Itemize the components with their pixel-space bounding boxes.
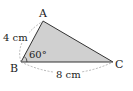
measurement-bc: 8 cm bbox=[56, 69, 81, 80]
vertex-label-b: B bbox=[10, 62, 18, 75]
measurement-ab: 4 cm bbox=[3, 32, 28, 43]
vertex-label-c: C bbox=[115, 58, 123, 71]
angle-b-label: 60° bbox=[29, 49, 47, 60]
vertex-label-a: A bbox=[38, 7, 48, 20]
triangle-diagram: A B C 4 cm 8 cm 60° bbox=[0, 0, 133, 91]
